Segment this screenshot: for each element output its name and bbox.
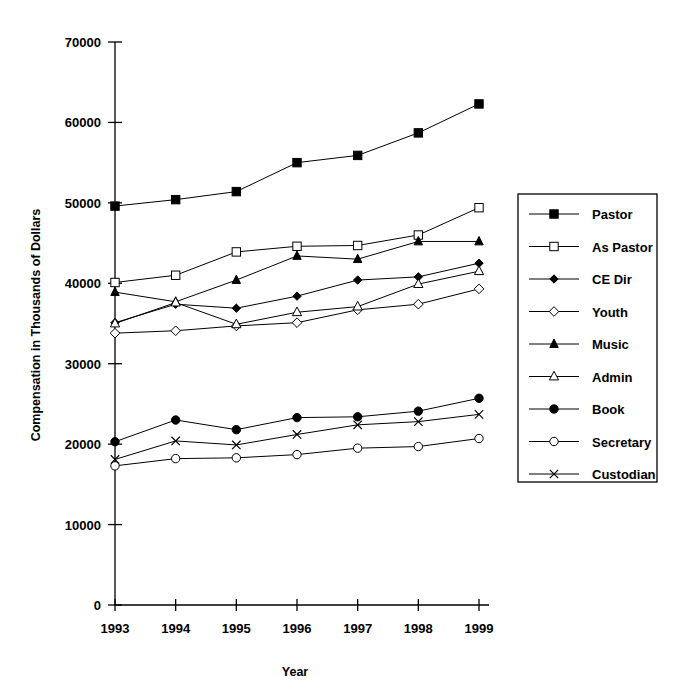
data-point xyxy=(475,100,483,108)
chart-container: 010000200003000040000500006000070000 199… xyxy=(0,0,679,699)
data-point xyxy=(232,187,240,195)
data-point xyxy=(171,195,179,203)
chart-background xyxy=(0,0,679,699)
x-tick-label: 1993 xyxy=(101,621,130,636)
line-chart: 010000200003000040000500006000070000 199… xyxy=(0,0,679,699)
data-point xyxy=(293,158,301,166)
data-point xyxy=(293,413,301,421)
data-point xyxy=(353,413,361,421)
data-point xyxy=(475,434,483,442)
data-point xyxy=(414,442,422,450)
data-point xyxy=(111,202,119,210)
legend-label: Music xyxy=(592,337,629,352)
data-point xyxy=(232,248,240,256)
data-point xyxy=(232,454,240,462)
data-point xyxy=(232,425,240,433)
x-tick-label: 1994 xyxy=(161,621,191,636)
legend-label: Custodian xyxy=(592,467,656,482)
data-point xyxy=(111,438,119,446)
data-point xyxy=(475,203,483,211)
data-point xyxy=(293,242,301,250)
legend-label: Pastor xyxy=(592,207,632,222)
x-axis-title: Year xyxy=(282,665,309,679)
legend-label: As Pastor xyxy=(592,240,653,255)
x-tick-label: 1999 xyxy=(465,621,494,636)
legend-marker-open-square-icon xyxy=(550,242,558,250)
y-axis-title: Compensation in Thousands of Dollars xyxy=(29,209,43,442)
x-tick-label: 1997 xyxy=(343,621,372,636)
x-tick-label: 1995 xyxy=(222,621,251,636)
legend-label: Secretary xyxy=(592,435,652,450)
data-point xyxy=(475,394,483,402)
y-tick-label: 60000 xyxy=(65,115,101,130)
legend-label: Book xyxy=(592,402,625,417)
data-point xyxy=(353,241,361,249)
data-point xyxy=(414,407,422,415)
y-tick-label: 0 xyxy=(94,598,101,613)
y-tick-label: 30000 xyxy=(65,357,101,372)
data-point xyxy=(171,454,179,462)
x-tick-label: 1998 xyxy=(404,621,433,636)
data-point xyxy=(171,416,179,424)
data-point xyxy=(111,278,119,286)
legend-marker-filled-square-icon xyxy=(550,210,558,218)
y-tick-label: 50000 xyxy=(65,196,101,211)
legend-label: CE Dir xyxy=(592,272,632,287)
y-tick-label: 40000 xyxy=(65,276,101,291)
legend-marker-filled-circle-icon xyxy=(550,405,558,413)
data-point xyxy=(171,271,179,279)
data-point xyxy=(414,129,422,137)
data-point xyxy=(353,151,361,159)
y-tick-label: 70000 xyxy=(65,35,101,50)
legend-marker-open-circle-icon xyxy=(550,437,558,445)
data-point xyxy=(293,450,301,458)
legend-label: Admin xyxy=(592,370,633,385)
data-point xyxy=(353,444,361,452)
y-tick-label: 10000 xyxy=(65,518,101,533)
y-tick-label: 20000 xyxy=(65,437,101,452)
legend-label: Youth xyxy=(592,305,628,320)
x-tick-label: 1996 xyxy=(283,621,312,636)
